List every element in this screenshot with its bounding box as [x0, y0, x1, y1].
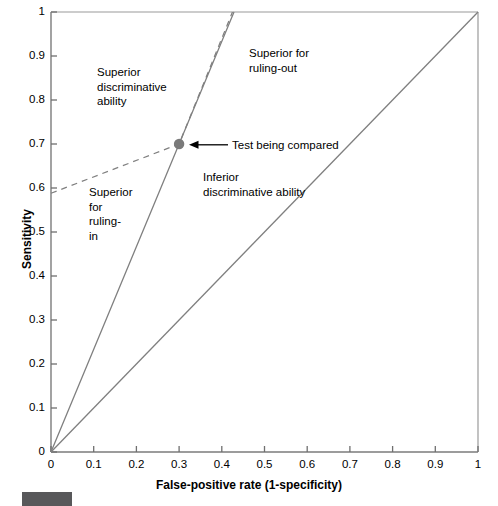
x-tick-label-0.7: 0.7 — [342, 459, 358, 471]
y-axis-ticks — [51, 12, 57, 452]
y-axis-title: Sensitivity — [20, 179, 34, 299]
x-axis-title: False-positive rate (1-specificity) — [0, 478, 498, 492]
pointer-arrow — [189, 141, 228, 149]
y-tick-label-0: 0 — [12, 446, 45, 458]
data-point-test-being-compared — [174, 139, 184, 149]
annotation-test-being-compared: Test being compared — [232, 138, 392, 153]
x-tick-label-0.2: 0.2 — [128, 459, 144, 471]
y-tick-label-0.2: 0.2 — [12, 358, 45, 370]
y-tick-label-0.3: 0.3 — [12, 314, 45, 326]
x-tick-label-0: 0 — [48, 459, 54, 471]
x-tick-label-0.6: 0.6 — [299, 459, 315, 471]
y-tick-label-0.1: 0.1 — [12, 402, 45, 414]
annotation-superior-for-ruling-out: Superior for ruling-out — [249, 46, 369, 75]
x-tick-label-0.5: 0.5 — [257, 459, 273, 471]
figure-number-marker — [22, 492, 72, 506]
x-tick-label-0.3: 0.3 — [171, 459, 187, 471]
data-points-layer — [174, 139, 184, 149]
y-tick-label-0.7: 0.7 — [12, 138, 45, 150]
annotation-inferior-discriminative-ability: Inferior discriminative ability — [203, 170, 333, 199]
y-tick-label-1: 1 — [12, 6, 45, 18]
x-tick-label-1: 1 — [475, 459, 481, 471]
x-tick-label-0.9: 0.9 — [427, 459, 443, 471]
y-tick-label-0.8: 0.8 — [12, 94, 45, 106]
y-tick-label-0.9: 0.9 — [12, 50, 45, 62]
x-tick-label-0.4: 0.4 — [214, 459, 230, 471]
x-axis-ticks — [51, 446, 478, 452]
x-tick-label-0.1: 0.1 — [86, 459, 102, 471]
annotation-superior-for-ruling-in: Superior for ruling- in — [89, 185, 169, 244]
annotation-superior-discriminative-ability: Superior discriminative ability — [97, 65, 207, 109]
x-tick-label-0.8: 0.8 — [385, 459, 401, 471]
